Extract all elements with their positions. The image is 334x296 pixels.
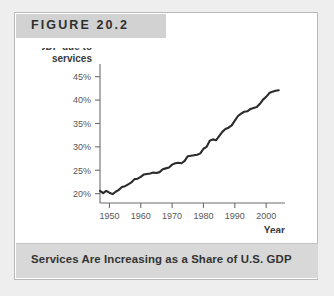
- y-axis-title: services: [52, 53, 92, 64]
- x-tick-label: 1950: [99, 211, 119, 221]
- y-tick-label: 45%: [73, 72, 91, 82]
- chart-plot-panel: 45%40%35%30%25%20%1950196019701980199020…: [42, 48, 292, 233]
- y-tick-label: 35%: [73, 119, 91, 129]
- y-axis-title: GDP due to: [42, 48, 92, 52]
- y-tick-label: 40%: [73, 95, 91, 105]
- x-tick-label: 1970: [162, 211, 182, 221]
- x-tick-label: 1980: [193, 211, 213, 221]
- x-tick-label: 2000: [256, 211, 276, 221]
- y-tick-label: 25%: [73, 166, 91, 176]
- figure-caption: Services Are Increasing as a Share of U.…: [31, 253, 292, 265]
- data-line-gdp-services: [100, 90, 279, 194]
- y-tick-label: 20%: [73, 189, 91, 199]
- x-tick-label: 1960: [131, 211, 151, 221]
- figure-card: FIGURE 20.2 45%40%35%30%25%20%1950196019…: [14, 12, 318, 280]
- y-tick-label: 30%: [73, 142, 91, 152]
- figure-label: FIGURE 20.2: [31, 18, 129, 32]
- figure-caption-band: Services Are Increasing as a Share of U.…: [16, 243, 318, 278]
- line-chart: 45%40%35%30%25%20%1950196019701980199020…: [42, 48, 292, 233]
- x-axis-title: Year: [264, 225, 285, 233]
- x-tick-label: 1990: [225, 211, 245, 221]
